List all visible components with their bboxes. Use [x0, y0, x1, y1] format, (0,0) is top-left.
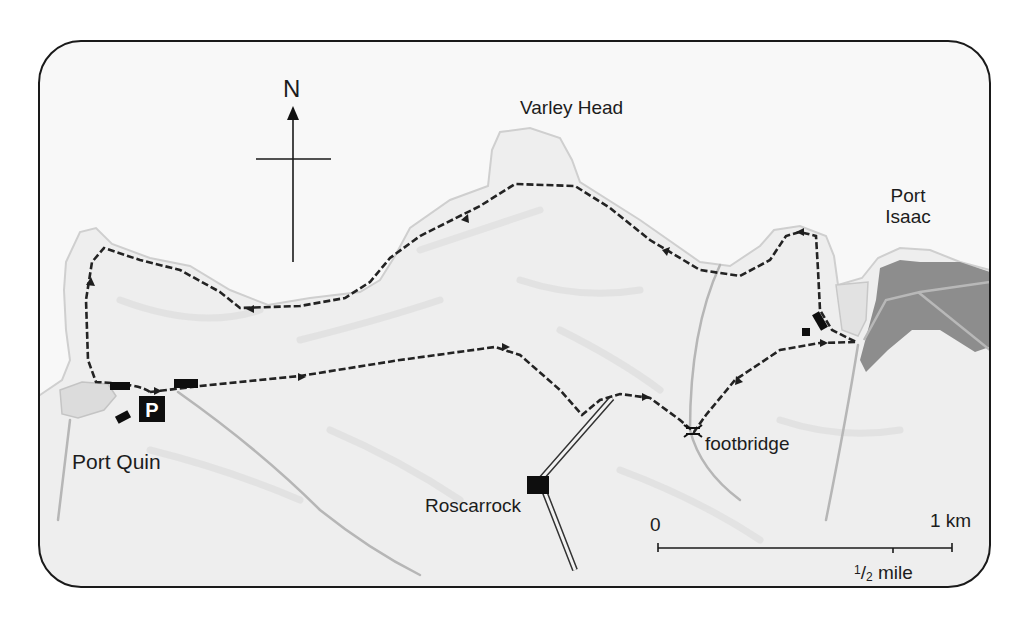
port-isaac-line2: Isaac	[873, 207, 943, 228]
half-mile-numerator: 1	[854, 563, 861, 577]
svg-text:P: P	[145, 399, 158, 421]
place-label-footbridge: footbridge	[705, 434, 790, 455]
place-label-varley-head: Varley Head	[520, 98, 623, 119]
parking-icon: P	[139, 396, 165, 422]
place-label-port-isaac: Port Isaac	[873, 186, 943, 228]
scale-label-end: 1 km	[930, 511, 971, 532]
walking-route-map: P	[0, 0, 1018, 632]
place-label-roscarrock: Roscarrock	[425, 496, 521, 517]
port-isaac-line1: Port	[873, 186, 943, 207]
half-mile-denominator: 2	[866, 570, 873, 584]
scale-label-start: 0	[650, 515, 661, 536]
half-mile-unit: mile	[873, 562, 913, 583]
north-label: N	[283, 76, 300, 102]
scale-label-half-mile: 1/2 mile	[854, 563, 913, 584]
place-label-port-quin: Port Quin	[72, 450, 161, 473]
